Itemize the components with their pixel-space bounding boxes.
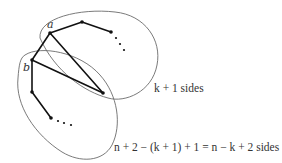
edge-b-cross (32, 60, 103, 93)
vertex-top (80, 20, 84, 24)
vertex-b (30, 58, 34, 62)
vertex-right (109, 30, 113, 34)
lower-region-caption: n + 2 − (k + 1) + 1 = n − k + 2 sides (114, 141, 280, 154)
polygon-vertices (30, 20, 113, 120)
edge-top-right (82, 22, 111, 32)
vertex-cross (101, 91, 105, 95)
ellipsis-dots-lower (57, 120, 72, 126)
vertex-bottom (49, 116, 53, 120)
edge-a-top (50, 22, 82, 33)
vertex-label-b: b (23, 61, 30, 74)
vertex-left-low (30, 90, 34, 94)
polygon-diagram: a b k + 1 sides n + 2 − (k + 1) + 1 = n … (0, 0, 282, 163)
vertex-label-a: a (47, 18, 54, 31)
upper-region-caption: k + 1 sides (154, 82, 204, 94)
upper-region-outline (40, 11, 158, 99)
edge-a-cross (50, 33, 103, 93)
edge-down-bottom (32, 92, 51, 118)
vertex-a (48, 31, 52, 35)
polygon-edges (32, 22, 111, 118)
ellipsis-dots-upper (115, 37, 125, 51)
diagonal-ab (32, 33, 50, 60)
